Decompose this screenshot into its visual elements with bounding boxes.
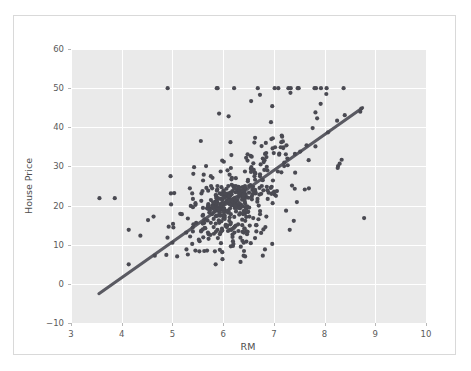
x-tick-mark <box>274 323 275 326</box>
data-point <box>227 194 231 198</box>
data-point <box>289 86 293 90</box>
data-point <box>240 218 244 222</box>
data-point <box>280 135 284 139</box>
data-point <box>271 178 275 182</box>
data-point <box>188 234 192 238</box>
data-point <box>229 153 233 157</box>
data-point <box>307 186 311 190</box>
data-point <box>279 145 283 149</box>
data-point <box>202 249 206 253</box>
x-axis-title: RM <box>241 341 256 352</box>
data-point <box>234 209 238 213</box>
x-tick-mark <box>426 323 427 326</box>
data-point <box>253 136 257 140</box>
data-point <box>234 176 238 180</box>
data-point <box>264 214 268 218</box>
data-point <box>165 236 169 240</box>
data-point <box>358 110 362 114</box>
data-point <box>146 218 150 222</box>
data-point <box>237 201 241 205</box>
data-point <box>209 221 213 225</box>
data-point <box>113 196 117 200</box>
data-point <box>218 232 222 236</box>
data-point <box>335 119 339 123</box>
data-point <box>341 86 345 90</box>
data-point <box>261 178 265 182</box>
x-tick-mark <box>325 323 326 326</box>
data-point <box>249 170 253 174</box>
data-point <box>336 166 340 170</box>
data-point <box>236 222 240 226</box>
scatter-plot-svg <box>71 49 426 323</box>
data-point <box>319 102 323 106</box>
data-point <box>255 197 259 201</box>
data-point <box>216 207 220 211</box>
data-point <box>272 151 276 155</box>
data-point <box>229 244 233 248</box>
data-point <box>238 260 242 264</box>
data-point <box>286 163 290 167</box>
y-tick-mark <box>68 166 71 167</box>
data-point <box>263 247 267 251</box>
data-point <box>184 230 188 234</box>
data-point <box>293 152 297 156</box>
y-tick-label: 20 <box>40 201 64 210</box>
data-point <box>220 250 224 254</box>
data-point <box>216 236 220 240</box>
data-point <box>258 212 262 216</box>
data-point <box>295 200 299 204</box>
data-point <box>228 140 232 144</box>
data-point <box>248 154 252 158</box>
y-tick-label: 0 <box>40 280 64 289</box>
data-point <box>127 228 131 232</box>
data-point <box>314 86 318 90</box>
data-point <box>184 247 188 251</box>
y-tick-label: 30 <box>40 162 64 171</box>
x-tick-mark <box>223 323 224 326</box>
data-point <box>153 254 157 258</box>
x-tick-mark <box>122 323 123 326</box>
data-point <box>277 151 281 155</box>
data-point <box>199 199 203 203</box>
data-point <box>276 86 280 90</box>
data-point <box>259 144 263 148</box>
data-point <box>241 212 245 216</box>
data-point <box>212 232 216 236</box>
data-point <box>202 173 206 177</box>
x-tick-label: 8 <box>322 330 327 339</box>
y-tick-label: 40 <box>40 123 64 132</box>
x-tick-label: 6 <box>220 330 225 339</box>
data-point <box>227 199 231 203</box>
data-point <box>215 228 219 232</box>
data-point <box>186 216 190 220</box>
data-point <box>290 184 294 188</box>
data-point <box>307 158 311 162</box>
data-point <box>254 229 258 233</box>
data-point <box>261 188 265 192</box>
data-point <box>243 200 247 204</box>
data-point <box>203 226 207 230</box>
data-point <box>214 262 218 266</box>
data-point <box>269 137 273 141</box>
data-point <box>276 169 280 173</box>
data-point <box>338 162 342 166</box>
data-point <box>206 203 210 207</box>
data-point <box>362 216 366 220</box>
data-point <box>197 238 201 242</box>
data-point <box>257 203 261 207</box>
data-point <box>200 189 204 193</box>
data-point <box>229 228 233 232</box>
data-point <box>232 86 236 90</box>
data-point <box>262 160 266 164</box>
data-point <box>313 144 317 148</box>
data-point <box>190 191 194 195</box>
x-tick-label: 7 <box>271 330 276 339</box>
data-point <box>192 165 196 169</box>
data-point <box>315 116 319 120</box>
plot-area <box>71 49 426 323</box>
data-point <box>269 186 273 190</box>
data-point <box>261 254 265 258</box>
data-point <box>266 197 270 201</box>
y-tick-mark <box>68 206 71 207</box>
data-point <box>246 178 250 182</box>
